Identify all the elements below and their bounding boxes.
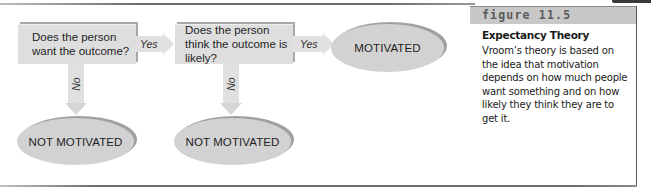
figure-label: figure 11.5 (482, 7, 571, 24)
outcome-not-motivated-1: NOT MOTIVATED (17, 118, 134, 165)
edge-label: Yes (300, 36, 318, 52)
arrow-down-icon (220, 103, 242, 115)
arrow-right-icon (163, 33, 174, 55)
decision-box-outcome-likely: Does the person think the outcome is lik… (175, 24, 293, 64)
outcome-not-motivated-2: NOT MOTIVATED (174, 118, 291, 165)
figure-caption: Vroom’s theory is based on the idea that… (482, 44, 632, 125)
corner-tab (612, 0, 651, 3)
outcome-text: NOT MOTIVATED (186, 136, 280, 148)
bottom-rule (0, 185, 637, 187)
edge-label: No (225, 76, 237, 92)
top-rule (0, 3, 475, 5)
no-arrow-1: No (65, 64, 87, 115)
yes-arrow-2: Yes (293, 33, 335, 55)
edge-label: Yes (140, 36, 158, 52)
no-arrow-2: No (220, 64, 242, 115)
decision-box-want-outcome: Does the person want the outcome? (18, 24, 136, 64)
outcome-text: MOTIVATED (354, 42, 420, 54)
yes-arrow-1: Yes (136, 33, 174, 55)
figure-title: Expectancy Theory (482, 29, 589, 41)
edge-label: No (70, 76, 82, 92)
figure-header-band: figure 11.5 (470, 6, 636, 24)
decision-text: Does the person think the outcome is lik… (185, 23, 293, 65)
decision-text: Does the person want the outcome? (32, 30, 136, 58)
outcome-motivated: MOTIVATED (331, 24, 444, 72)
outcome-text: NOT MOTIVATED (29, 136, 123, 148)
figure-caption-panel: figure 11.5 Expectancy Theory Vroom’s th… (470, 6, 637, 186)
arrow-down-icon (65, 103, 87, 115)
